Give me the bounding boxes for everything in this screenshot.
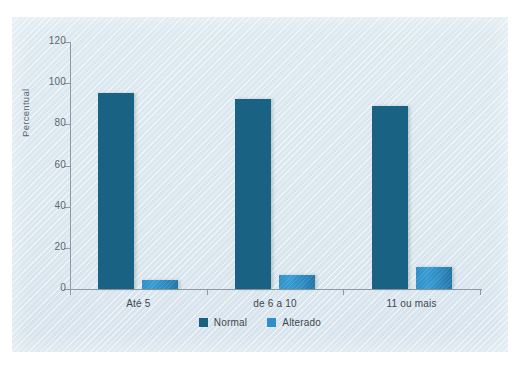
x-axis-category-label: de 6 a 10 (207, 298, 344, 309)
y-axis-tick-label: 60 (54, 159, 66, 170)
bar-normal (98, 93, 134, 289)
legend-item-normal: Normal (199, 317, 247, 328)
bar-normal (372, 106, 408, 289)
bar-normal (235, 99, 271, 289)
legend-swatch-icon (199, 318, 208, 327)
legend-label: Alterado (282, 317, 321, 328)
x-axis-line (70, 289, 482, 290)
y-axis-title: Percentual (20, 89, 31, 137)
chart-legend: NormalAlterado (12, 317, 508, 328)
x-axis-tick (207, 289, 208, 295)
y-axis-tick-label: 80 (54, 117, 66, 128)
plot-area (70, 42, 480, 289)
x-axis-category-label: 11 ou mais (343, 298, 480, 309)
cut-off-caption-strip (0, 0, 520, 14)
y-axis-tick-label: 120 (49, 35, 66, 46)
legend-label: Normal (214, 317, 247, 328)
chart-panel: Percentual 020406080100120 Até 5de 6 a 1… (12, 17, 508, 352)
x-axis-tick (343, 289, 344, 295)
bar-alterado (142, 280, 178, 289)
legend-item-alterado: Alterado (267, 317, 321, 328)
y-axis-tick-label: 20 (54, 241, 66, 252)
bar-alterado (279, 275, 315, 289)
x-axis-category-label: Até 5 (70, 298, 207, 309)
y-axis-tick-label: 0 (60, 282, 66, 293)
y-axis-tick-label: 100 (49, 76, 66, 87)
x-axis-tick (480, 289, 481, 295)
legend-swatch-icon (267, 318, 276, 327)
y-axis-tick-label: 40 (54, 200, 66, 211)
bar-alterado (416, 267, 452, 289)
x-axis-tick (70, 289, 71, 295)
